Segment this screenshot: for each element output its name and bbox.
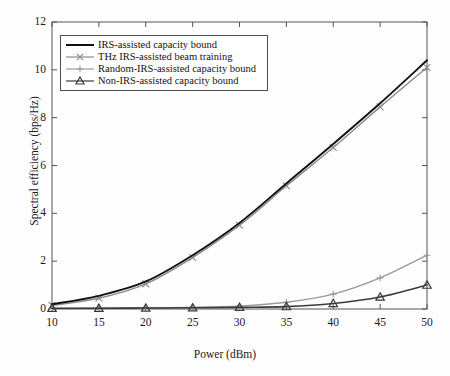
plus-marker-icon [330,291,337,298]
y-tick-label: 12 [14,15,46,27]
x-axis-title: Power (dBm) [0,348,450,360]
series-line-2 [52,255,427,308]
y-axis-title: Spectral efficiency (bps/Hz) [28,96,40,225]
x-tick-label: 35 [266,316,306,328]
plus-marker-icon [377,275,384,282]
y-axis-title-wrapper: Spectral efficiency (bps/Hz) [24,56,42,266]
x-tick-label: 45 [360,316,400,328]
legend-item-1[interactable]: THz IRS-assisted beam training [65,51,262,63]
legend-item-2[interactable]: Random-IRS-assisted capacity bound [65,63,262,75]
legend-label: THz IRS-assisted beam training [98,51,232,63]
legend-sample-none-icon [65,39,95,51]
x-tick-label: 10 [32,316,72,328]
legend-sample-plus-icon [65,63,95,75]
x-tick-label: 50 [407,316,447,328]
legend-label: Non-IRS-assisted capacity bound [98,75,239,87]
x-tick-label: 15 [79,316,119,328]
x-tick-label: 20 [126,316,166,328]
x-tick-label: 30 [220,316,260,328]
legend-label: IRS-assisted capacity bound [98,39,217,51]
legend-label: Random-IRS-assisted capacity bound [98,63,256,75]
x-tick-label: 25 [173,316,213,328]
chart-legend: IRS-assisted capacity boundTHz IRS-assis… [60,35,268,91]
legend-item-0[interactable]: IRS-assisted capacity bound [65,39,262,51]
x-tick-label: 40 [313,316,353,328]
series-line-0 [52,60,427,304]
legend-item-3[interactable]: Non-IRS-assisted capacity bound [65,75,262,87]
legend-sample-x-icon [65,51,95,63]
series-line-1 [52,67,427,305]
figure-container: 024681012 101520253035404550 Power (dBm)… [0,0,450,376]
plus-marker-icon [424,252,431,259]
legend-sample-triangle-icon [65,75,95,87]
y-tick-label: 0 [14,302,46,314]
